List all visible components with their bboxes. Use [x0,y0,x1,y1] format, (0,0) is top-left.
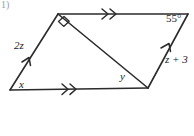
side-left [10,14,58,90]
diagonal-line [58,14,148,88]
side-bottom [10,88,148,90]
angle-x-label: x [19,79,24,90]
side-right [148,14,188,88]
angle-55-degree-label: 55° [166,13,181,24]
problem-number: 1) [1,0,9,10]
angle-y-label: y [120,71,125,82]
geometry-figure-container: 1) 2z x y 55° z + 3 [0,0,194,136]
right-side-length-label: z + 3 [165,54,188,65]
left-side-length-label: 2z [14,40,24,51]
geometry-diagram [0,0,194,136]
